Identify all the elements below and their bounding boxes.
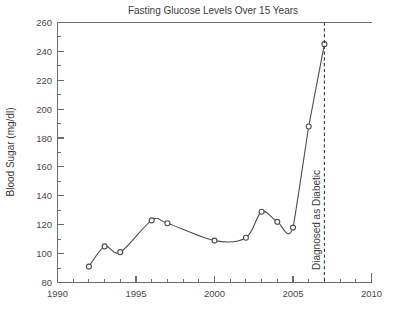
data-point-marker bbox=[149, 218, 154, 223]
chart-container: Fasting Glucose Levels Over 15 Years Blo… bbox=[0, 0, 394, 313]
y-tick-label: 200 bbox=[36, 104, 52, 115]
diagnosis-annotation-group: Diagnosed as Diabetic bbox=[311, 23, 324, 283]
data-point-marker bbox=[275, 219, 280, 224]
x-tick-label: 2000 bbox=[204, 288, 225, 299]
diagnosis-annotation-label: Diagnosed as Diabetic bbox=[311, 170, 322, 270]
data-point-marker bbox=[306, 124, 311, 129]
y-tick-label: 220 bbox=[36, 75, 52, 86]
x-tick-label: 2010 bbox=[361, 288, 382, 299]
data-point-marker bbox=[259, 209, 264, 214]
data-point-marker bbox=[118, 250, 123, 255]
y-tick-label: 260 bbox=[36, 17, 52, 28]
x-axis-ticks: 1990 1995 2000 2005 2010 bbox=[47, 276, 382, 300]
y-tick-label: 80 bbox=[41, 277, 52, 288]
data-point-marker bbox=[212, 238, 217, 243]
y-tick-label: 160 bbox=[36, 161, 52, 172]
glucose-line-chart: Fasting Glucose Levels Over 15 Years Blo… bbox=[0, 0, 394, 313]
data-point-marker bbox=[243, 235, 248, 240]
data-point-marker bbox=[86, 264, 91, 269]
y-tick-label: 180 bbox=[36, 133, 52, 144]
y-axis-ticks: 80 100 120 140 160 180 200 220 240 260 bbox=[36, 17, 63, 288]
data-point-marker bbox=[165, 221, 170, 226]
y-axis-title: Blood Sugar (mg/dl) bbox=[5, 108, 16, 197]
data-point-marker bbox=[291, 225, 296, 230]
x-tick-label: 1995 bbox=[125, 288, 146, 299]
x-tick-label: 1990 bbox=[47, 288, 68, 299]
chart-title: Fasting Glucose Levels Over 15 Years bbox=[128, 5, 298, 16]
data-point-marker bbox=[102, 244, 107, 249]
y-tick-label: 120 bbox=[36, 219, 52, 230]
y-tick-label: 240 bbox=[36, 46, 52, 57]
series-line-blood-sugar bbox=[89, 44, 325, 266]
y-tick-label: 100 bbox=[36, 248, 52, 259]
y-tick-label: 140 bbox=[36, 190, 52, 201]
series-markers-group bbox=[86, 42, 327, 269]
data-series-group bbox=[86, 42, 327, 269]
x-tick-label: 2005 bbox=[282, 288, 303, 299]
